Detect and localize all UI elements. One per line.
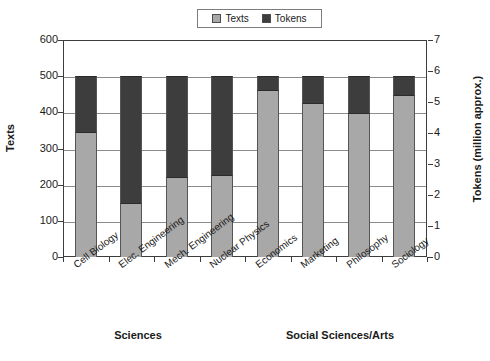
legend-item-tokens: Tokens xyxy=(262,14,307,24)
y-axis-left-tickmark xyxy=(58,40,63,41)
y-axis-right-tickmark xyxy=(428,71,433,72)
plot-area xyxy=(63,40,427,257)
y-axis-right-title: Tokens (million approx.) xyxy=(471,59,483,219)
y-axis-right-ticks xyxy=(428,40,433,257)
y-axis-right-tick-label: 2 xyxy=(434,189,440,200)
y-axis-left-tickmark xyxy=(58,221,63,222)
legend-swatch-texts xyxy=(212,14,221,23)
y-axis-right-tick-label: 3 xyxy=(434,158,440,169)
y-axis-left-tickmark xyxy=(58,149,63,150)
y-axis-right-tickmark xyxy=(428,226,433,227)
y-axis-left-tick-label: 100 xyxy=(40,215,58,226)
y-axis-left-tick-label: 200 xyxy=(40,179,58,190)
legend-label-texts: Texts xyxy=(225,14,248,24)
y-axis-right-tickmark xyxy=(428,40,433,41)
y-axis-left-tickmark xyxy=(58,185,63,186)
chart-figure: Texts Tokens 0100200300400500600 Texts 0… xyxy=(0,0,490,361)
y-axis-right-tickmark xyxy=(428,195,433,196)
y-axis-right-tickmark xyxy=(428,164,433,165)
legend-label-tokens: Tokens xyxy=(275,14,307,24)
y-axis-right-tickmark xyxy=(428,133,433,134)
y-axis-left-tick-label: 500 xyxy=(40,70,58,81)
legend-item-texts: Texts xyxy=(212,14,248,24)
y-axis-left-tick-label: 600 xyxy=(40,34,58,45)
y-axis-right-tickmark xyxy=(428,257,433,258)
y-axis-right-tick-label: 1 xyxy=(434,220,440,231)
gridline xyxy=(64,113,426,114)
legend-swatch-tokens xyxy=(262,14,271,23)
gridline xyxy=(64,77,426,78)
y-axis-right-tick-label: 7 xyxy=(434,34,440,45)
gridline xyxy=(64,222,426,223)
y-axis-right-tickmark xyxy=(428,102,433,103)
group-label-sciences: Sciences xyxy=(78,329,198,341)
group-label-social-sciences-arts: Social Sciences/Arts xyxy=(260,329,420,341)
y-axis-left-labels: 0100200300400500600 xyxy=(18,40,58,257)
chart-legend: Texts Tokens xyxy=(197,9,322,28)
y-axis-left-tickmark xyxy=(58,76,63,77)
y-axis-right-tick-label: 0 xyxy=(434,251,440,262)
gridline xyxy=(64,150,426,151)
y-axis-left-tickmark xyxy=(58,112,63,113)
y-axis-right-tick-label: 5 xyxy=(434,96,440,107)
y-axis-left-title: Texts xyxy=(4,108,16,168)
y-axis-right-tick-label: 6 xyxy=(434,65,440,76)
y-axis-left-tick-label: 300 xyxy=(40,143,58,154)
y-axis-left-ticks xyxy=(58,40,63,257)
y-axis-right-labels: 01234567 xyxy=(434,40,458,257)
gridline xyxy=(64,186,426,187)
y-axis-left-tick-label: 400 xyxy=(40,106,58,117)
y-axis-right-tick-label: 4 xyxy=(434,127,440,138)
x-axis-labels: Cell BiologyElec. EngineeringMech. Engin… xyxy=(63,262,463,322)
